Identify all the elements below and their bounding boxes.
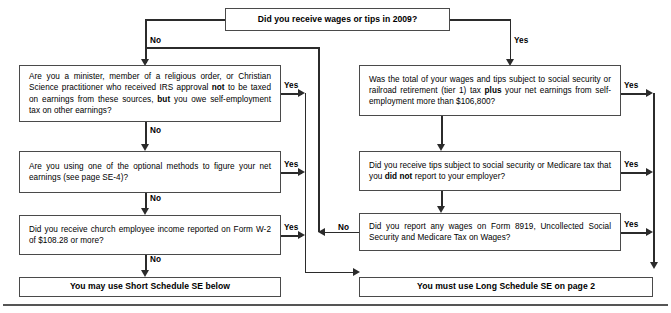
edge-right-yes1-arrowhead [646, 89, 653, 97]
edge-left-yes3-arrowhead [298, 231, 305, 239]
node-church-income-question: Did you receive church employee income r… [19, 215, 281, 255]
node-form-8919-question: Did you report any wages on Form 8919, U… [359, 213, 621, 251]
edge-left-no2-vertical [145, 193, 147, 208]
edge-left-no3-vertical [145, 255, 147, 271]
edge-left-yes1-arrowhead [298, 89, 305, 97]
edge-left-yes-collector-arrowhead [353, 268, 360, 276]
edge-right-no2-vertical [441, 191, 443, 206]
node-form-8919-question-label: Did you report any wages on Form 8919, U… [369, 221, 611, 244]
node-result-long-schedule-label: You must use Long Schedule SE on page 2 [369, 281, 643, 292]
node-minister-question-label: Are you a minister, member of a religiou… [29, 71, 271, 116]
edge-left-yes-collector-vertical [305, 93, 307, 273]
edge-left-no2-arrowhead [141, 208, 149, 215]
edge-left-no1-arrowhead [141, 144, 149, 151]
edge-right-yes-collector-vertical [653, 93, 655, 264]
edge-right-yes2-arrowhead [646, 168, 653, 176]
edge-top-yes-vertical [510, 19, 512, 63]
edge-left-no3-arrowhead [141, 270, 149, 277]
se-flowchart: Did you receive wages or tips in 2009? N… [0, 0, 671, 313]
edge-top-yes-horizontal [449, 19, 511, 21]
edge-8919-no-vertical [318, 47, 320, 232]
node-unreported-tips-question: Did you receive tips subject to social s… [359, 151, 621, 191]
edge-label-right-yes3: Yes [624, 220, 638, 229]
node-result-short-schedule-label: You may use Short Schedule SE below [29, 281, 271, 292]
node-church-income-question-label: Did you receive church employee income r… [29, 224, 271, 247]
edge-label-right-yes2: Yes [624, 160, 638, 169]
node-unreported-tips-question-label: Did you receive tips subject to social s… [369, 160, 611, 183]
edge-8919-no-feed-horizontal [145, 47, 319, 49]
edge-label-top-yes: Yes [514, 36, 528, 45]
edge-right-no1-arrowhead [437, 144, 445, 151]
edge-label-8919-no: No [338, 223, 349, 232]
node-result-short-schedule: You may use Short Schedule SE below [19, 277, 281, 297]
edge-label-top-no: No [150, 36, 161, 45]
edge-label-left-yes2: Yes [284, 160, 298, 169]
node-top-question: Did you receive wages or tips in 2009? [225, 8, 450, 31]
edge-top-no-vertical [145, 19, 147, 63]
node-wages-total-question-label: Was the total of your wages and tips sub… [369, 74, 611, 108]
edge-label-left-yes1: Yes [284, 81, 298, 90]
node-result-long-schedule: You must use Long Schedule SE on page 2 [359, 277, 653, 297]
edge-right-yes3-arrowhead [646, 228, 653, 236]
edge-right-yes-collector-arrowhead [650, 262, 658, 269]
edge-left-yes-collector-horizontal [305, 272, 358, 274]
node-optional-methods-question: Are you using one of the optional method… [19, 151, 281, 193]
edge-label-right-yes1: Yes [624, 81, 638, 90]
node-wages-total-question: Was the total of your wages and tips sub… [359, 65, 621, 116]
edge-top-no-horizontal [145, 19, 226, 21]
edge-left-no1-vertical [145, 122, 147, 144]
node-top-question-label: Did you receive wages or tips in 2009? [235, 14, 440, 25]
node-minister-question: Are you a minister, member of a religiou… [19, 65, 281, 122]
edge-label-left-no2: No [150, 194, 161, 203]
edge-label-left-yes3: Yes [284, 223, 298, 232]
edge-left-yes2-arrowhead [298, 168, 305, 176]
edge-right-no2-arrowhead [437, 206, 445, 213]
edge-label-left-no1: No [150, 126, 161, 135]
edge-right-no1-vertical [441, 116, 443, 144]
bottom-divider [3, 304, 668, 306]
edge-label-left-no3: No [150, 255, 161, 264]
node-optional-methods-question-label: Are you using one of the optional method… [29, 161, 271, 184]
edge-8919-no-arrowhead [318, 228, 325, 236]
